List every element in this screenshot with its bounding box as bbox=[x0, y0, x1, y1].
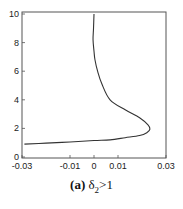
y-tick-label: 0 bbox=[14, 152, 19, 162]
caption-condition: >1 bbox=[99, 177, 113, 192]
plot-frame bbox=[22, 12, 166, 158]
y-tick-label: 8 bbox=[14, 38, 19, 48]
y-tick-label: 10 bbox=[9, 9, 19, 19]
series-line-curve bbox=[24, 14, 150, 144]
y-axis: 0246810 bbox=[9, 9, 25, 162]
x-tick-label: 0.01 bbox=[109, 161, 127, 171]
x-axis: -0.03-0.0100.010.03 bbox=[12, 155, 175, 171]
figure-caption: (a) δ2>1 bbox=[0, 177, 183, 195]
x-tick-label: 0.03 bbox=[157, 161, 175, 171]
x-tick-label: -0.01 bbox=[60, 161, 81, 171]
caption-label: (a) bbox=[70, 177, 85, 192]
x-tick-label: 0 bbox=[91, 161, 96, 171]
y-tick-label: 6 bbox=[14, 66, 19, 76]
x-tick-label: -0.03 bbox=[12, 161, 33, 171]
y-tick-label: 2 bbox=[14, 123, 19, 133]
y-tick-label: 4 bbox=[14, 95, 19, 105]
